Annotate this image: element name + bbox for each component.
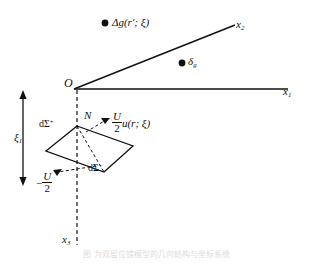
xi1-arrowhead-top: [19, 90, 26, 99]
displacement-down-label: −U2: [36, 172, 52, 196]
xi1-label-subscript: 1: [19, 137, 22, 144]
axis-x3-label-subscript: 3: [67, 239, 70, 246]
u-over-two-fraction: U2: [112, 111, 122, 135]
u-field-function: u(r; ξ): [122, 117, 150, 129]
minus-u-fraction-denominator: 2: [42, 182, 52, 195]
axis-x1-label-subscript: 1: [288, 91, 291, 98]
d-sigma-minus-label: dΣ−: [88, 163, 103, 173]
xi1-arrowhead-bottom: [19, 177, 26, 186]
axis-x3-label: x3: [62, 234, 70, 247]
delta-sub-g-label: δg: [188, 56, 197, 69]
d-sigma-minus-base: dΣ: [88, 162, 99, 173]
delta-sub-g-subscript: g: [193, 61, 196, 68]
minus-u-fraction-numerator: U: [42, 171, 52, 183]
d-sigma-minus-superscript: −: [99, 162, 103, 169]
displacement-up-label: U2u(r; ξ): [112, 112, 150, 136]
delta-g-label: Δg(r′; ξ): [112, 17, 149, 28]
u-fraction-numerator: U: [112, 111, 122, 123]
axis-x2-label-subscript: 2: [241, 24, 244, 31]
minus-u-over-two-fraction: U2: [42, 171, 52, 195]
d-sigma-plus-superscript: +: [50, 118, 54, 125]
axis-x2-label: x2: [236, 19, 244, 32]
figure-container: O x1 x2 x3 N ξ1 Δg(r′; ξ) δg dΣ+ dΣ− U2u…: [0, 0, 313, 266]
field-point-delta-g-marker: [102, 20, 109, 27]
normal-vector-label: N: [84, 110, 91, 121]
d-sigma-plus-base: dΣ: [39, 118, 50, 129]
field-point-delta-sub-g-marker: [179, 60, 186, 67]
xi1-measure-label: ξ1: [14, 132, 22, 145]
diagram-canvas: [0, 0, 313, 266]
axis-x2-line: [74, 25, 235, 89]
figure-caption: 图 为双层位错模型的几何结构与坐标系统: [0, 248, 313, 259]
axis-x1-label: x1: [283, 86, 291, 99]
u-fraction-denominator: 2: [112, 122, 122, 135]
origin-label: O: [64, 77, 73, 89]
displacement-down-arrowhead: [53, 169, 62, 176]
d-sigma-plus-label: dΣ+: [39, 119, 54, 129]
displacement-up-arrowhead: [101, 118, 110, 124]
